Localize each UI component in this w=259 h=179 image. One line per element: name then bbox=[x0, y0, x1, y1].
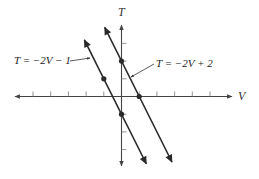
data-point bbox=[119, 59, 124, 64]
x-axis-label: V bbox=[238, 89, 247, 103]
y-axis-label: T bbox=[118, 5, 126, 19]
coordinate-graph: T V T = −2V − 1 T = −2V + 2 bbox=[0, 0, 259, 179]
annotation-arrows bbox=[70, 58, 154, 77]
annotation-arrow-line2 bbox=[131, 64, 154, 77]
axes bbox=[15, 25, 232, 166]
line-series-1 bbox=[84, 40, 146, 164]
line2-label: T = −2V + 2 bbox=[156, 57, 213, 69]
data-point bbox=[119, 112, 124, 117]
data-point bbox=[137, 94, 142, 99]
line1-label: T = −2V − 1 bbox=[14, 54, 71, 66]
data-point bbox=[101, 76, 106, 81]
annotation-arrow-line1 bbox=[70, 58, 90, 61]
plot-lines bbox=[84, 27, 172, 163]
